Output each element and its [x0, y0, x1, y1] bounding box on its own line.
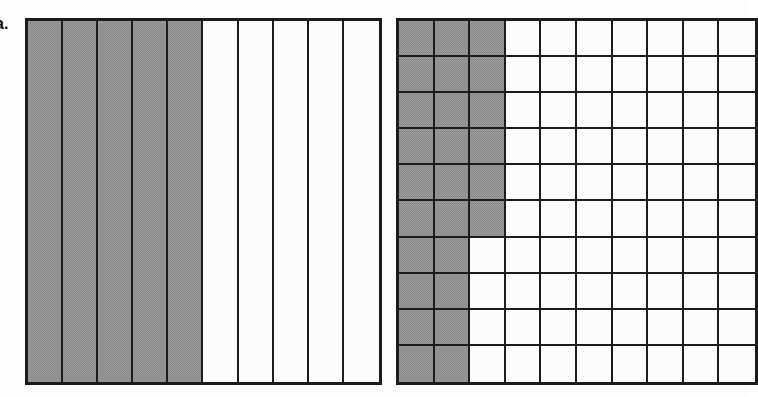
- grid-cell-empty[interactable]: [613, 57, 649, 93]
- grid-cell-empty[interactable]: [648, 93, 684, 129]
- strip-cell-shaded[interactable]: [133, 21, 168, 382]
- grid-cell-empty[interactable]: [613, 165, 649, 201]
- grid-cell-empty[interactable]: [506, 93, 542, 129]
- grid-cell-empty[interactable]: [613, 346, 649, 382]
- grid-cell-empty[interactable]: [719, 346, 755, 382]
- strip-cell-shaded[interactable]: [28, 21, 63, 382]
- grid-cell-empty[interactable]: [613, 93, 649, 129]
- grid-cell-empty[interactable]: [648, 310, 684, 346]
- grid-cell-empty[interactable]: [470, 310, 506, 346]
- grid-cell-empty[interactable]: [541, 57, 577, 93]
- grid-cell-empty[interactable]: [648, 21, 684, 57]
- grid-cell-shaded[interactable]: [399, 201, 435, 237]
- strip-cell-empty[interactable]: [239, 21, 274, 382]
- grid-cell-empty[interactable]: [648, 129, 684, 165]
- grid-cell-shaded[interactable]: [435, 238, 471, 274]
- grid-cell-empty[interactable]: [470, 274, 506, 310]
- strip-cell-empty[interactable]: [274, 21, 309, 382]
- strip-cell-empty[interactable]: [309, 21, 344, 382]
- grid-cell-empty[interactable]: [577, 129, 613, 165]
- grid-cell-shaded[interactable]: [435, 346, 471, 382]
- grid-cell-empty[interactable]: [719, 201, 755, 237]
- grid-cell-empty[interactable]: [719, 274, 755, 310]
- grid-cell-empty[interactable]: [541, 346, 577, 382]
- grid-cell-shaded[interactable]: [470, 165, 506, 201]
- grid-cell-shaded[interactable]: [470, 57, 506, 93]
- grid-cell-shaded[interactable]: [435, 165, 471, 201]
- grid-cell-shaded[interactable]: [470, 93, 506, 129]
- grid-cell-empty[interactable]: [613, 21, 649, 57]
- grid-cell-empty[interactable]: [719, 57, 755, 93]
- grid-cell-empty[interactable]: [577, 274, 613, 310]
- strip-cell-empty[interactable]: [344, 21, 379, 382]
- grid-cell-empty[interactable]: [719, 238, 755, 274]
- grid-cell-empty[interactable]: [541, 129, 577, 165]
- grid-cell-shaded[interactable]: [435, 93, 471, 129]
- grid-cell-empty[interactable]: [506, 21, 542, 57]
- grid-cell-empty[interactable]: [648, 274, 684, 310]
- grid-cell-empty[interactable]: [506, 310, 542, 346]
- grid-cell-empty[interactable]: [506, 201, 542, 237]
- strip-fraction-model[interactable]: [25, 18, 382, 385]
- grid-cell-empty[interactable]: [577, 165, 613, 201]
- grid-cell-shaded[interactable]: [399, 238, 435, 274]
- grid-cell-empty[interactable]: [506, 57, 542, 93]
- grid-cell-shaded[interactable]: [399, 274, 435, 310]
- grid-cell-shaded[interactable]: [435, 57, 471, 93]
- grid-cell-empty[interactable]: [719, 21, 755, 57]
- grid-cell-empty[interactable]: [613, 310, 649, 346]
- grid-cell-empty[interactable]: [506, 274, 542, 310]
- grid-cell-shaded[interactable]: [399, 129, 435, 165]
- grid-cell-empty[interactable]: [684, 129, 720, 165]
- grid-cell-empty[interactable]: [648, 346, 684, 382]
- grid-cell-shaded[interactable]: [435, 274, 471, 310]
- grid-cell-empty[interactable]: [506, 238, 542, 274]
- hundred-square-grid-model[interactable]: [396, 18, 758, 385]
- grid-cell-shaded[interactable]: [399, 21, 435, 57]
- grid-cell-empty[interactable]: [648, 57, 684, 93]
- grid-cell-empty[interactable]: [577, 21, 613, 57]
- grid-cell-empty[interactable]: [577, 57, 613, 93]
- grid-cell-empty[interactable]: [684, 21, 720, 57]
- grid-cell-empty[interactable]: [577, 93, 613, 129]
- grid-cell-shaded[interactable]: [399, 165, 435, 201]
- grid-cell-empty[interactable]: [541, 274, 577, 310]
- strip-cell-shaded[interactable]: [63, 21, 98, 382]
- grid-cell-empty[interactable]: [541, 165, 577, 201]
- grid-cell-empty[interactable]: [719, 93, 755, 129]
- grid-cell-empty[interactable]: [541, 93, 577, 129]
- grid-cell-empty[interactable]: [648, 165, 684, 201]
- grid-cell-empty[interactable]: [684, 238, 720, 274]
- grid-cell-empty[interactable]: [506, 346, 542, 382]
- grid-cell-empty[interactable]: [613, 129, 649, 165]
- grid-cell-shaded[interactable]: [470, 201, 506, 237]
- grid-cell-empty[interactable]: [648, 201, 684, 237]
- grid-cell-empty[interactable]: [506, 129, 542, 165]
- grid-cell-shaded[interactable]: [399, 93, 435, 129]
- strip-cell-shaded[interactable]: [168, 21, 203, 382]
- grid-cell-empty[interactable]: [613, 201, 649, 237]
- grid-cell-empty[interactable]: [541, 238, 577, 274]
- grid-cell-shaded[interactable]: [399, 57, 435, 93]
- grid-cell-empty[interactable]: [684, 165, 720, 201]
- grid-cell-empty[interactable]: [684, 310, 720, 346]
- grid-cell-shaded[interactable]: [399, 310, 435, 346]
- grid-cell-empty[interactable]: [684, 274, 720, 310]
- grid-cell-empty[interactable]: [506, 165, 542, 201]
- grid-cell-shaded[interactable]: [470, 129, 506, 165]
- grid-cell-empty[interactable]: [719, 129, 755, 165]
- grid-cell-empty[interactable]: [577, 201, 613, 237]
- grid-cell-shaded[interactable]: [435, 129, 471, 165]
- grid-cell-empty[interactable]: [577, 310, 613, 346]
- grid-cell-empty[interactable]: [684, 93, 720, 129]
- grid-cell-empty[interactable]: [684, 346, 720, 382]
- grid-cell-empty[interactable]: [684, 57, 720, 93]
- grid-cell-empty[interactable]: [719, 165, 755, 201]
- grid-cell-empty[interactable]: [541, 21, 577, 57]
- grid-cell-shaded[interactable]: [399, 346, 435, 382]
- grid-cell-shaded[interactable]: [435, 310, 471, 346]
- strip-cell-shaded[interactable]: [98, 21, 133, 382]
- grid-cell-empty[interactable]: [613, 238, 649, 274]
- grid-cell-shaded[interactable]: [470, 21, 506, 57]
- grid-cell-empty[interactable]: [684, 201, 720, 237]
